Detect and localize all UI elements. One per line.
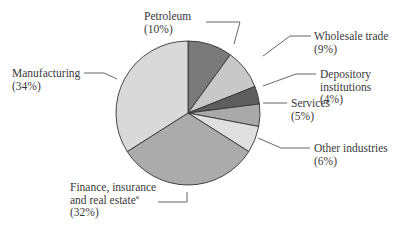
pie-slices bbox=[116, 41, 260, 185]
leader-line bbox=[263, 36, 311, 56]
slice-label: Other industries(6%) bbox=[314, 142, 388, 168]
slice-percent: (32%) bbox=[70, 206, 99, 219]
slice-percent: (9%) bbox=[314, 43, 337, 56]
leader-line bbox=[158, 192, 187, 202]
slice-name: Wholesale trade bbox=[314, 30, 388, 42]
slice-name: Finance, insurance bbox=[70, 181, 156, 194]
slice-percent: (34%) bbox=[12, 80, 41, 93]
slice-name: Manufacturing bbox=[12, 67, 81, 80]
slice-label: Manufacturing(34%) bbox=[12, 67, 81, 93]
slice-percent: (10%) bbox=[144, 23, 173, 36]
leader-line bbox=[206, 22, 240, 44]
pie-chart: Petroleum(10%)Wholesale trade(9%)Deposit… bbox=[0, 0, 396, 233]
slice-label: Finance, insuranceand real estateª(32%) bbox=[70, 181, 156, 219]
leader-line bbox=[84, 73, 117, 79]
slice-name: institutions bbox=[320, 81, 372, 93]
slice-label: Petroleum(10%) bbox=[144, 10, 191, 36]
slice-name: Depository bbox=[320, 68, 371, 81]
leader-line bbox=[258, 138, 310, 148]
slice-name: and real estateª bbox=[70, 194, 140, 206]
slice-label: Wholesale trade(9%) bbox=[314, 30, 388, 56]
leader-line bbox=[263, 74, 316, 86]
slice-label: Services(5%) bbox=[291, 97, 330, 123]
slice-name: Services bbox=[291, 97, 330, 109]
slice-percent: (5%) bbox=[291, 110, 314, 123]
slice-name: Other industries bbox=[314, 142, 388, 154]
slice-name: Petroleum bbox=[144, 10, 191, 22]
slice-percent: (6%) bbox=[314, 155, 337, 168]
